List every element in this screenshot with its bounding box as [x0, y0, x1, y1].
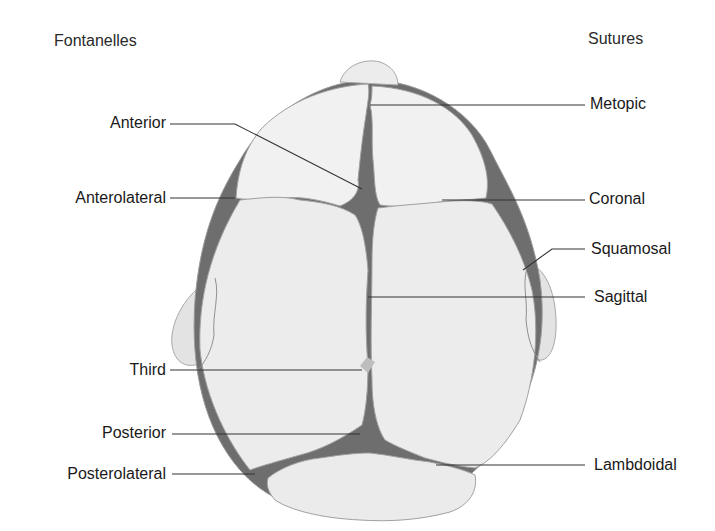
label-lambdoidal-suture: Lambdoidal	[594, 456, 677, 474]
label-third-fontanelle: Third	[130, 361, 166, 379]
skull-illustration	[0, 0, 715, 531]
label-posterior-fontanelle: Posterior	[102, 424, 166, 442]
label-sagittal-suture: Sagittal	[594, 288, 647, 306]
skull-diagram: Fontanelles Sutures Anterior Anterolater…	[0, 0, 715, 531]
label-posterolateral-fontanelle: Posterolateral	[67, 465, 166, 483]
sutures-header: Sutures	[588, 30, 643, 48]
label-squamosal-suture: Squamosal	[591, 240, 671, 258]
left-parietal-bone	[200, 197, 368, 470]
right-frontal-bone	[370, 86, 487, 206]
fontanelles-header: Fontanelles	[54, 32, 137, 50]
label-metopic-suture: Metopic	[590, 95, 646, 113]
nasal-bump	[340, 61, 398, 85]
label-anterior-fontanelle: Anterior	[110, 114, 166, 132]
label-coronal-suture: Coronal	[589, 190, 645, 208]
right-parietal-bone	[371, 201, 536, 468]
label-anterolateral-fontanelle: Anterolateral	[75, 189, 166, 207]
left-frontal-bone	[236, 84, 369, 206]
